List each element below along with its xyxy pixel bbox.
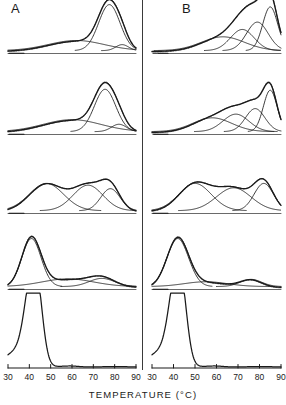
raw-endotherm-curve <box>8 293 136 367</box>
x-axis-tick-label: 50 <box>190 372 199 382</box>
x-axis-tick-label: 80 <box>255 372 264 382</box>
component-curve-3 <box>224 109 281 132</box>
fitted-sum-curve <box>152 82 281 133</box>
panel-label-a: A <box>11 1 20 16</box>
x-axis-tick-label: 90 <box>276 372 285 382</box>
component-curve-2 <box>179 188 281 211</box>
component-curve-1 <box>8 239 62 287</box>
x-axis-tick-label: 60 <box>212 372 221 382</box>
component-curve-4 <box>248 90 280 131</box>
experimental-curve <box>8 0 136 51</box>
panel-divider <box>142 0 143 370</box>
raw-endotherm-curve <box>152 293 281 367</box>
experimental-curve <box>152 0 281 51</box>
fitted-sum-curve <box>152 178 281 211</box>
x-axis-tick-label: 40 <box>169 372 178 382</box>
experimental-curve <box>152 179 281 211</box>
x-axis-tick-label: 70 <box>233 372 242 382</box>
x-axis-tick-label: 30 <box>147 372 156 382</box>
x-axis-title: TEMPERATURE (°C) <box>0 389 286 400</box>
experimental-curve <box>8 179 136 210</box>
x-axis-tick-labels-b: 30405060708090 <box>0 372 286 384</box>
figure-canvas: A B 30405060708090 30405060708090 TEMPER… <box>0 0 286 405</box>
experimental-curve <box>152 83 281 133</box>
component-curve-2 <box>75 5 136 51</box>
experimental-curve <box>152 237 281 287</box>
component-curve-1 <box>152 118 274 132</box>
panel-label-b: B <box>182 1 191 16</box>
component-curve-1 <box>8 183 101 210</box>
fitted-sum-curve <box>152 0 281 52</box>
thermogram-plot-area <box>0 0 286 372</box>
experimental-curve <box>8 237 136 287</box>
component-curve-3 <box>233 183 281 210</box>
